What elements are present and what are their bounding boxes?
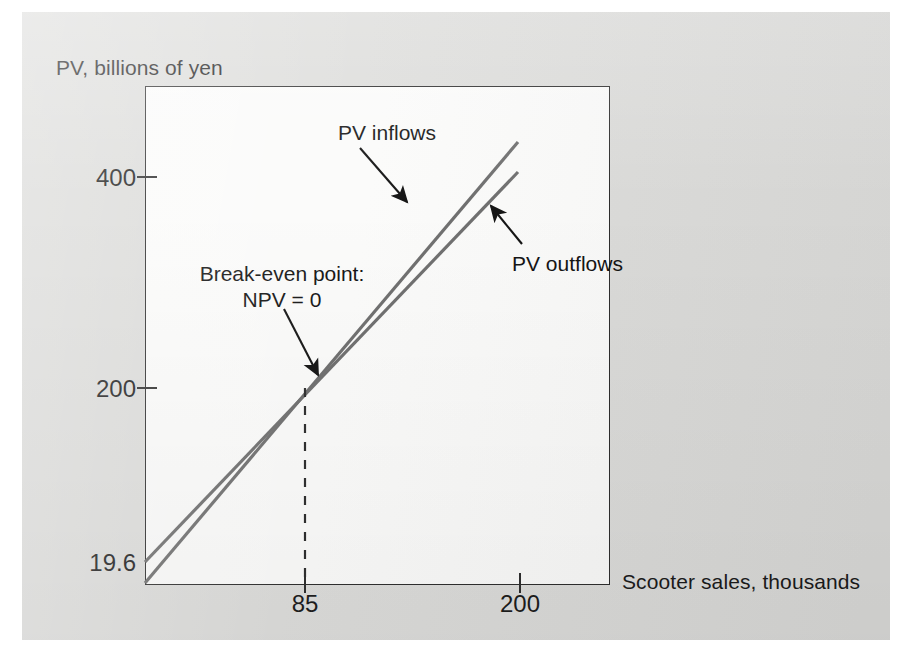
x-tick-label-200: 200 (490, 590, 550, 618)
y-axis-title: PV, billions of yen (56, 56, 223, 80)
figure-page: PV, billions of yen Scooter sales, thous… (0, 0, 912, 669)
series-line-pv-outflows (145, 172, 518, 562)
chart-root: PV, billions of yen Scooter sales, thous… (22, 12, 890, 640)
x-tick-label-85: 85 (275, 590, 335, 618)
x-axis-title: Scooter sales, thousands (622, 570, 860, 594)
series-line-pv-inflows (145, 142, 518, 583)
plot-drawing-surface (145, 86, 608, 583)
pv-outflows-label: PV outflows (512, 251, 623, 277)
break-even-label: Break-even point: NPV = 0 (174, 261, 390, 312)
scanned-figure-panel: PV, billions of yen Scooter sales, thous… (22, 12, 890, 640)
y-tick-label-400: 400 (74, 164, 136, 192)
y-tick-label-200: 200 (74, 375, 136, 403)
y-tick-label-19-6: 19.6 (62, 549, 136, 577)
pv-inflows-label: PV inflows (338, 120, 436, 146)
